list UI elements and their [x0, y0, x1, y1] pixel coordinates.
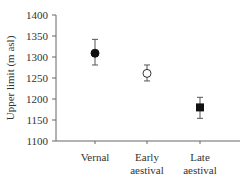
- x-ticks: VernalEarlyaestivalLateaestival: [81, 141, 217, 176]
- y-ticks: 1100115012001250130013501400: [26, 9, 56, 147]
- x-tick-label: Early: [135, 151, 159, 163]
- y-tick-label: 1350: [26, 30, 49, 42]
- chart: Upper limit (m asl) 11001150120012501300…: [0, 0, 251, 182]
- y-tick-label: 1100: [26, 135, 48, 147]
- y-axis-title: Upper limit (m asl): [4, 35, 17, 120]
- y-tick-label: 1300: [26, 51, 49, 63]
- data-point-group: [196, 97, 204, 118]
- marker-filled-square: [196, 103, 204, 111]
- data-points: [91, 39, 204, 118]
- y-tick-label: 1200: [26, 93, 49, 105]
- marker-open-circle: [143, 69, 151, 77]
- x-tick-label: Vernal: [81, 151, 110, 163]
- data-point-group: [143, 65, 151, 81]
- x-tick-label: aestival: [130, 164, 164, 176]
- marker-filled-circle: [91, 49, 99, 57]
- y-tick-label: 1400: [26, 9, 49, 21]
- y-tick-label: 1250: [26, 72, 49, 84]
- x-tick-label: aestival: [183, 164, 217, 176]
- y-tick-label: 1150: [26, 114, 48, 126]
- x-tick-label: Late: [190, 151, 210, 163]
- data-point-group: [91, 39, 99, 65]
